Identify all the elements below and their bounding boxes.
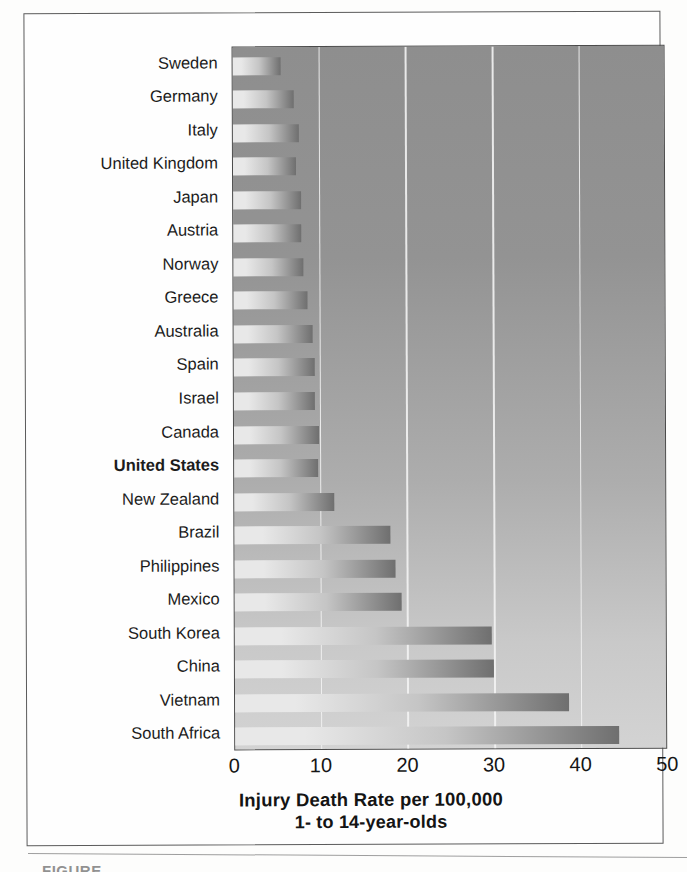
chart-x-axis-title: Injury Death Rate per 100,000 1- to 14-y… <box>52 787 687 835</box>
y-axis-label-new-zealand: New Zealand <box>122 490 219 507</box>
y-axis-label-south-korea: South Korea <box>128 624 220 641</box>
bar-germany <box>233 90 295 108</box>
y-axis-label-philippines: Philippines <box>140 557 220 574</box>
bar-vietnam <box>235 693 569 712</box>
y-axis-label-spain: Spain <box>177 356 219 373</box>
bar-norway <box>233 258 303 276</box>
y-axis-label-united-kingdom: United Kingdom <box>101 155 218 172</box>
y-axis-label-israel: Israel <box>178 389 218 406</box>
x-tick-40: 40 <box>570 753 592 776</box>
bar-italy <box>233 124 299 142</box>
y-axis-label-austria: Austria <box>167 222 218 239</box>
x-tick-10: 10 <box>310 754 332 777</box>
bar-austria <box>233 225 301 243</box>
bar-south-africa <box>235 726 619 745</box>
bar-greece <box>233 292 307 310</box>
bar-philippines <box>235 559 396 578</box>
bar-australia <box>234 325 313 343</box>
y-axis-label-germany: Germany <box>150 88 218 105</box>
y-axis-label-norway: Norway <box>162 255 218 272</box>
y-axis-label-south-africa: South Africa <box>131 725 220 742</box>
axis-title-line-1: Injury Death Rate per 100,000 <box>52 787 687 813</box>
bar-brazil <box>234 526 390 545</box>
bar-united-states <box>234 459 318 477</box>
x-tick-20: 20 <box>396 754 418 777</box>
x-tick-30: 30 <box>483 753 505 776</box>
gridline-40 <box>578 46 582 748</box>
figure-frame: SwedenGermanyItalyUnited KingdomJapanAus… <box>23 11 663 846</box>
x-tick-0: 0 <box>229 754 240 777</box>
axis-title-line-2: 1- to 14-year-olds <box>52 810 687 835</box>
y-axis-label-brazil: Brazil <box>178 524 219 541</box>
bar-sweden <box>233 57 281 75</box>
bar-canada <box>234 426 319 444</box>
y-axis-label-mexico: Mexico <box>167 591 219 608</box>
y-axis-label-china: China <box>177 658 220 675</box>
page-edge-line <box>28 853 687 858</box>
bar-israel <box>234 392 315 410</box>
bar-spain <box>234 359 315 377</box>
y-axis-label-japan: Japan <box>173 188 218 205</box>
figure-caption-fragment: FIGURE <box>42 862 382 872</box>
y-axis-label-united-states: United States <box>114 457 220 474</box>
bar-united-kingdom <box>233 158 296 176</box>
chart-plot-area <box>232 45 668 751</box>
chart-y-axis-labels: SwedenGermanyItalyUnited KingdomJapanAus… <box>25 46 229 751</box>
gridline-30 <box>492 46 496 748</box>
bar-mexico <box>235 593 402 612</box>
y-axis-label-vietnam: Vietnam <box>160 691 220 708</box>
bar-new-zealand <box>234 493 335 511</box>
bar-china <box>235 660 494 679</box>
y-axis-label-italy: Italy <box>188 121 218 138</box>
y-axis-label-australia: Australia <box>154 322 218 339</box>
chart-x-axis-ticks: 01020304050 <box>27 753 687 786</box>
bar-south-korea <box>235 626 492 645</box>
y-axis-label-sweden: Sweden <box>158 54 218 71</box>
x-tick-50: 50 <box>656 753 678 776</box>
bar-japan <box>233 191 301 209</box>
y-axis-label-canada: Canada <box>161 423 219 440</box>
y-axis-label-greece: Greece <box>164 289 218 306</box>
scanned-page: SwedenGermanyItalyUnited KingdomJapanAus… <box>0 0 687 872</box>
